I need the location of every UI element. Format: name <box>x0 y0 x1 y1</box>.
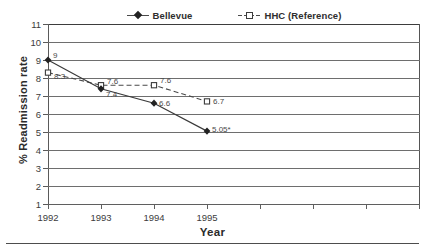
x-tick-5 <box>313 204 314 209</box>
series-plot-svg <box>48 24 420 204</box>
series-line-hhc-reference <box>48 73 207 102</box>
x-axis-title: Year <box>0 226 425 238</box>
y-tick-label-8: 8 <box>36 73 41 84</box>
x-tick-label-1992: 1992 <box>37 212 58 223</box>
y-tick-label-11: 11 <box>31 19 41 30</box>
plot-area: 11 10 9 8 7 6 5 4 3 2 1 1992 1993 1994 1… <box>48 24 420 204</box>
y-tick-label-4: 4 <box>36 145 41 156</box>
data-point-bellevue-1994 <box>151 100 158 107</box>
data-label-bellevue-1992: 9 <box>53 51 57 60</box>
data-point-hhc-1992 <box>45 70 50 75</box>
x-tick-4 <box>260 204 261 209</box>
data-point-bellevue-1992 <box>45 56 52 63</box>
y-tick-label-10: 10 <box>30 37 41 48</box>
series-line-bellevue <box>48 60 207 131</box>
data-label-bellevue-1995: 5.05* <box>212 125 231 134</box>
y-tick-label-7: 7 <box>36 91 41 102</box>
data-point-bellevue-1995 <box>204 128 211 135</box>
legend-label-bellevue: Bellevue <box>153 10 193 21</box>
data-label-hhc-1993: 7.6 <box>107 77 118 86</box>
x-tick-2 <box>154 204 155 209</box>
x-tick-label-1994: 1994 <box>143 212 164 223</box>
y-tick-label-3: 3 <box>36 163 41 174</box>
legend-marker-open-square-icon <box>238 11 260 20</box>
y-tick-label-2: 2 <box>36 181 41 192</box>
x-tick-6 <box>366 204 367 209</box>
data-label-hhc-1995: 6.7 <box>213 97 224 106</box>
data-point-hhc-1995 <box>204 99 209 104</box>
legend-entry-bellevue: Bellevue <box>127 10 193 21</box>
data-label-bellevue-1993: 7.4 <box>106 90 117 99</box>
data-label-hhc-1992: 8.3 <box>54 72 65 81</box>
y-axis-title: % Readmission rate <box>17 35 29 185</box>
legend-marker-filled-diamond-icon <box>127 11 149 20</box>
y-tick-label-9: 9 <box>36 55 41 66</box>
data-label-bellevue-1994: 6.6 <box>159 99 170 108</box>
y-tick-label-6: 6 <box>36 109 41 120</box>
chart-legend: Bellevue HHC (Reference) <box>48 6 420 24</box>
x-tick-1 <box>101 204 102 209</box>
footer-rule <box>6 243 419 244</box>
x-tick-3 <box>207 204 208 209</box>
x-tick-0 <box>48 204 49 209</box>
data-point-hhc-1994 <box>151 83 156 88</box>
legend-entry-hhc-reference: HHC (Reference) <box>238 10 341 21</box>
x-tick-label-1993: 1993 <box>90 212 111 223</box>
y-tick-label-1: 1 <box>36 199 41 210</box>
readmission-rate-line-chart: Bellevue HHC (Reference) % Readmission r… <box>0 0 425 248</box>
legend-label-hhc-reference: HHC (Reference) <box>264 10 341 21</box>
data-label-hhc-1994: 7.6 <box>160 76 171 85</box>
y-tick-label-5: 5 <box>36 127 41 138</box>
x-axis-line <box>48 204 420 205</box>
x-tick-7 <box>419 204 420 209</box>
x-tick-label-1995: 1995 <box>196 212 217 223</box>
